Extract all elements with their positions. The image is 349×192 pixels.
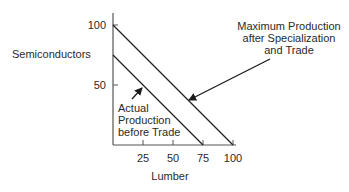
actual-production-label-line1: Actual xyxy=(118,102,149,114)
max-production-label-line1: Maximum Production xyxy=(237,20,340,32)
actual-production-label-line3: before Trade xyxy=(118,126,180,138)
max-production-label-line3: and Trade xyxy=(264,44,314,56)
x-tick-label-75: 75 xyxy=(197,152,209,164)
y-tick-label-100: 100 xyxy=(88,19,106,31)
x-tick-label-100: 100 xyxy=(224,152,242,164)
y-tick-label-50: 50 xyxy=(94,79,106,91)
ppf-chart: 100 50 25 50 75 100 Semiconductors Lumbe… xyxy=(0,0,349,192)
y-axis-title: Semiconductors xyxy=(12,48,91,60)
x-tick-label-25: 25 xyxy=(137,152,149,164)
x-tick-label-50: 50 xyxy=(167,152,179,164)
actual-production-arrow xyxy=(132,88,142,99)
actual-production-label-line2: Production xyxy=(118,114,171,126)
max-production-label-line2: after Specialization xyxy=(243,32,336,44)
max-production-arrow xyxy=(189,59,270,100)
x-axis-title: Lumber xyxy=(151,170,189,182)
